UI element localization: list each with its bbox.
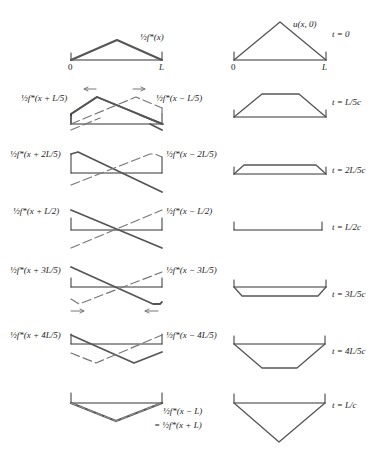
axis-zero-right: 0 [231, 62, 236, 72]
time-label-2: t = 2L/5c [332, 165, 366, 175]
panel-left-0 [71, 40, 162, 60]
label-right-2: ½f*(x − 2L/5) [166, 149, 217, 159]
time-label-1: t = L/5c [332, 97, 361, 107]
panel-left-1 [71, 87, 163, 130]
label-left-5: ½f*(x + 4L/5) [10, 330, 61, 340]
panel-right-3 [234, 222, 322, 230]
label-half-f: ½f*(x) [140, 32, 164, 42]
label-left-4: ½f*(x + 3L/5) [10, 265, 61, 275]
label-right-5: ½f*(x − 4L/5) [166, 330, 217, 340]
panel-right-2 [234, 165, 326, 174]
label-right-3: ½f*(x − L/2) [166, 206, 212, 216]
panel-left-2 [71, 152, 162, 192]
time-label-0: t = 0 [332, 29, 350, 39]
label-right-4: ½f*(x − 3L/5) [166, 265, 217, 275]
time-label-6: t = L/c [332, 400, 357, 410]
panel-left-3 [71, 210, 162, 248]
panel-right-4 [234, 280, 326, 296]
label-left-1: ½f*(x + L/5) [21, 93, 67, 103]
label-left-2: ½f*(x + 2L/5) [10, 149, 61, 159]
time-label-5: t = 4L/5c [332, 346, 366, 356]
time-label-3: t = L/2c [332, 222, 361, 232]
axis-L-left: L [158, 62, 164, 72]
axis-zero-left: 0 [68, 62, 73, 72]
label-left-3: ½f*(x + L/2) [13, 206, 59, 216]
label-right-1: ½f*(x − L/5) [156, 93, 202, 103]
panel-left-4 [71, 267, 162, 313]
panel-left-6 [71, 393, 162, 421]
wave-diagram: 0 L 0 L ½f*(x) u(x, 0) ½f*(x + L/5) ½f*(… [0, 0, 387, 452]
panel-right-5 [234, 336, 325, 368]
panel-right-1 [234, 94, 326, 117]
time-label-4: t = 3L/5c [332, 289, 366, 299]
axis-L-right: L [321, 62, 327, 72]
label-u-x-0: u(x, 0) [293, 19, 317, 29]
panel-left-5 [71, 334, 162, 363]
panel-right-6 [234, 394, 325, 442]
label-right-6a: ½f*(x − L) [163, 406, 202, 416]
label-right-6b: = ½f*(x + L) [154, 420, 202, 430]
